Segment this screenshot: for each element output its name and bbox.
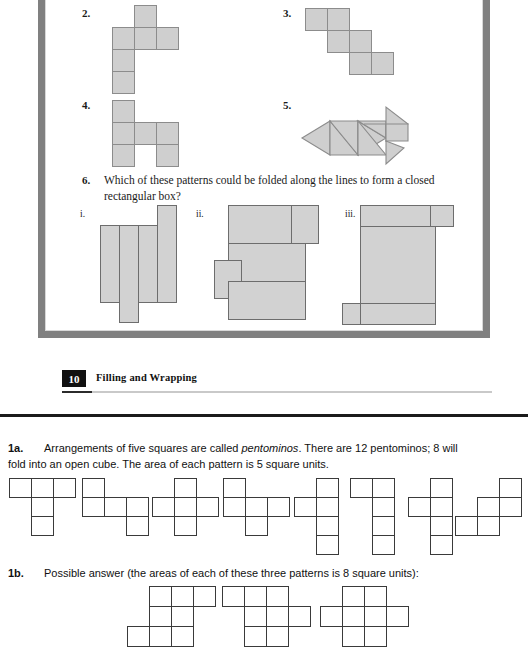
pent-cell	[408, 497, 431, 517]
net-3-cell	[349, 30, 372, 53]
net-2-cell	[112, 49, 135, 72]
question-number-4: 4.	[82, 99, 90, 111]
pent-cell	[174, 516, 197, 536]
answer-1a-italic-term: pentominos	[242, 442, 299, 454]
question-number-3: 3.	[283, 7, 291, 19]
pat-cell	[149, 586, 172, 607]
answer-label-1b: 1b.	[8, 567, 24, 579]
pent-cell	[372, 478, 395, 498]
pent-cell	[350, 478, 373, 498]
option-label-i: i.	[80, 209, 85, 219]
pat-cell	[342, 606, 365, 627]
pat-cell	[171, 586, 194, 607]
pat-cell	[364, 606, 387, 627]
pent-cell	[196, 497, 219, 517]
net-4-cell	[156, 122, 179, 145]
pent-cell	[430, 478, 453, 498]
pent-cell	[477, 497, 500, 517]
pat-cell	[288, 606, 311, 627]
pattern-ii-face	[291, 205, 319, 244]
net-2-cell	[112, 71, 135, 94]
net-4-cell	[134, 122, 157, 145]
book-title: Filling and Wrapping	[96, 372, 197, 383]
pent-cell	[31, 497, 54, 517]
footer-divider	[62, 391, 492, 393]
shape-net-2	[112, 5, 192, 93]
answer-key-section: 1a. Arrangements of five squares are cal…	[0, 414, 528, 668]
pent-cell	[223, 478, 246, 498]
pattern-iii-face	[360, 205, 436, 227]
pent-cell	[82, 497, 105, 517]
triangle-net-5-svg	[300, 104, 420, 166]
question-6-text-line2: rectangular box?	[104, 189, 181, 204]
box-pattern-i	[100, 205, 220, 323]
pat-cell	[171, 626, 194, 647]
pattern-i-face	[119, 225, 139, 323]
net-3-cell	[371, 52, 394, 75]
pat-cell	[244, 626, 267, 647]
question-number-6: 6.	[82, 174, 90, 186]
answer-text-1b: Possible answer (the areas of each of th…	[44, 566, 522, 582]
pent-cell	[372, 516, 395, 536]
pattern-group-1b	[0, 586, 528, 666]
pent-cell	[499, 478, 522, 498]
pent-cell	[9, 478, 32, 498]
pent-cell	[372, 535, 395, 555]
pat-cell	[342, 626, 365, 647]
pent-cell	[53, 478, 76, 498]
pent-cell	[174, 478, 197, 498]
pat-cell	[171, 606, 194, 627]
pent-cell	[294, 497, 317, 517]
answer-1a-post: . There are 12 pentominos; 8 will	[298, 442, 457, 454]
pent-cell	[316, 516, 339, 536]
pattern-ii-face	[228, 281, 306, 320]
pent-cell	[316, 497, 339, 517]
page-footer: 10 Filling and Wrapping	[0, 352, 528, 414]
pat-cell	[266, 606, 289, 627]
pat-cell	[320, 606, 343, 627]
net-4-cell	[112, 144, 135, 167]
pent-cell	[316, 478, 339, 498]
net-2-cell	[112, 27, 135, 50]
answer-text-1a: Arrangements of five squares are called …	[44, 441, 522, 457]
pent-cell	[372, 497, 395, 517]
scanned-exercise-panel: 2. 3. 4. 5.	[0, 0, 528, 352]
pat-cell	[364, 586, 387, 607]
pat-cell	[342, 586, 365, 607]
pent-cell	[223, 497, 246, 517]
pent-cell	[245, 497, 268, 517]
pat-cell	[266, 586, 289, 607]
question-number-2: 2.	[82, 7, 90, 19]
question-6-text-line1: Which of these patterns could be folded …	[104, 173, 435, 188]
shape-net-4	[112, 100, 192, 170]
pent-cell	[267, 497, 290, 517]
pattern-iii-face	[360, 226, 436, 306]
pattern-i-face	[100, 225, 120, 303]
shape-net-5	[300, 104, 420, 166]
pat-cell	[127, 626, 150, 647]
option-label-ii: ii.	[196, 209, 204, 219]
pent-cell	[455, 516, 478, 536]
pent-cell	[430, 535, 453, 555]
net-2-cell	[156, 27, 179, 50]
pent-cell	[126, 516, 149, 536]
pentomino-group	[0, 478, 528, 552]
question-number-5: 5.	[283, 99, 291, 111]
pent-cell	[430, 516, 453, 536]
pat-cell	[193, 586, 216, 607]
net-4-cell	[112, 122, 135, 145]
pent-cell	[82, 478, 105, 498]
pattern-iii-face	[430, 205, 454, 227]
section-divider	[0, 414, 528, 417]
net-4-cell	[112, 100, 135, 123]
pent-cell	[104, 497, 127, 517]
pat-cell	[222, 586, 245, 607]
pent-cell	[152, 497, 175, 517]
page-number-badge: 10	[62, 370, 86, 387]
pattern-iii-face	[360, 303, 436, 325]
pat-cell	[266, 626, 289, 647]
answer-1a-pre: Arrangements of five squares are called	[44, 442, 242, 454]
net-3-cell	[327, 30, 350, 53]
pent-cell	[174, 497, 197, 517]
answer-label-1a: 1a.	[8, 442, 23, 454]
